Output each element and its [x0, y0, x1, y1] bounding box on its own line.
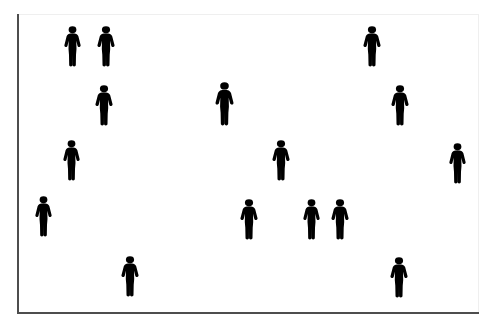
person-silhouette-icon: [94, 85, 114, 126]
person-silhouette-icon: [362, 26, 382, 67]
scene-canvas: [0, 0, 495, 336]
person-silhouette-icon: [62, 140, 81, 181]
person-silhouette-icon: [448, 143, 467, 184]
person-silhouette-icon: [271, 140, 291, 181]
person-silhouette-icon: [330, 199, 350, 240]
person-silhouette-icon: [302, 199, 321, 240]
frame-right-edge: [478, 14, 479, 314]
frame-top-edge: [17, 14, 479, 15]
person-silhouette-icon: [120, 256, 140, 297]
frame-left-edge: [17, 14, 19, 314]
frame-bottom-edge: [17, 312, 479, 314]
scene-frame: [17, 14, 479, 314]
person-silhouette-icon: [214, 82, 235, 126]
person-silhouette-icon: [389, 257, 409, 298]
person-silhouette-icon: [34, 196, 53, 237]
person-silhouette-icon: [96, 26, 116, 67]
person-silhouette-icon: [63, 26, 82, 67]
person-silhouette-icon: [239, 199, 259, 240]
person-silhouette-icon: [390, 85, 410, 126]
